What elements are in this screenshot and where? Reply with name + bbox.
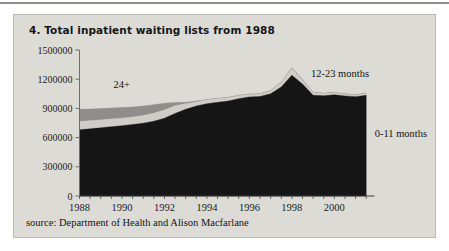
figure-root: 4. Total inpatient waiting lists from 19… bbox=[0, 0, 449, 251]
figure-panel bbox=[13, 14, 436, 238]
chart-title: 4. Total inpatient waiting lists from 19… bbox=[29, 24, 275, 36]
source-caption: source: Department of Health and Alison … bbox=[26, 217, 249, 228]
page-top-rule bbox=[0, 2, 449, 4]
